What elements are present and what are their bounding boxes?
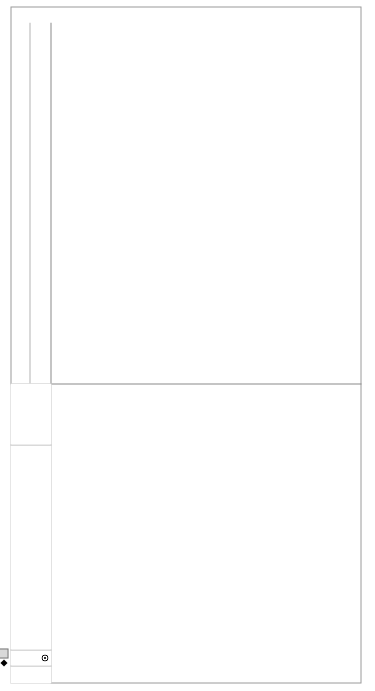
column-header-duration[interactable] [10, 383, 51, 444]
gantt-plot [51, 22, 361, 383]
gantt-area [10, 22, 361, 383]
column-header-task-name[interactable] [10, 444, 51, 649]
info-circle-icon [41, 654, 48, 661]
column-header-id[interactable] [10, 665, 51, 683]
timeline-day-row [30, 22, 50, 383]
table-header-row [10, 383, 51, 683]
toolbar-fragment[interactable] [0, 631, 8, 665]
timeline-header [10, 22, 51, 383]
task-table [10, 383, 361, 683]
toolbar-button-icon[interactable] [0, 648, 8, 658]
column-header-info-icon[interactable] [10, 649, 51, 665]
corner-number [0, 665, 10, 683]
screenshot-frame [0, 0, 375, 691]
timeline-date-row [10, 22, 30, 383]
gantt-sheet [0, 0, 375, 691]
